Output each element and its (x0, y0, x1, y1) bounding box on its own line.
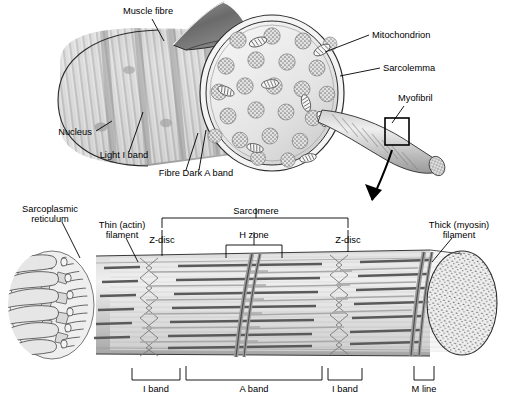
bottom-panel-labels: Sarcoplasmic reticulum Thin (actin) fila… (22, 204, 489, 245)
sarcoplasmic-reticulum-shape (6, 251, 108, 359)
myofibril-body (94, 250, 497, 358)
label-m-line: M line (412, 384, 437, 394)
muscle-structure-diagram: Muscle fibre Mitochondrion Sarcolemma My… (0, 0, 507, 399)
myosin-cross-section (427, 251, 497, 355)
label-mitochondrion: Mitochondrion (372, 30, 430, 40)
myofibril-strand (318, 110, 448, 178)
label-myofibril: Myofibril (398, 93, 433, 103)
label-sarcoplasmic-reticulum-line1: Sarcoplasmic (22, 204, 78, 214)
label-i-band-right: I band (332, 384, 358, 394)
label-light-i-band: Light I band (100, 150, 149, 160)
label-thin-actin-filament-line1: Thin (actin) (99, 220, 146, 230)
label-i-band-left: I band (143, 384, 169, 394)
band-labels: I band A band I band M line (143, 384, 436, 394)
label-z-disc-right: Z-disc (335, 235, 361, 245)
label-sarcolemma: Sarcolemma (383, 63, 436, 73)
label-fibre-dark-a-band: Fibre Dark A band (159, 168, 233, 178)
figure-canvas: Muscle fibre Mitochondrion Sarcolemma My… (0, 0, 507, 399)
label-nucleus: Nucleus (58, 127, 92, 137)
label-z-disc-left: Z-disc (149, 235, 175, 245)
label-thick-myosin-filament-line2: filament (443, 230, 476, 240)
label-h-zone: H zone (239, 230, 268, 240)
fibre-cross-section (200, 15, 344, 171)
label-sarcoplasmic-reticulum-line2: reticulum (31, 214, 69, 224)
label-muscle-fibre: Muscle fibre (123, 6, 173, 16)
label-thick-myosin-filament-line1: Thick (myosin) (429, 220, 489, 230)
label-sarcomere: Sarcomere (233, 206, 278, 216)
label-thin-actin-filament-line2: filament (106, 230, 139, 240)
label-a-band: A band (240, 384, 269, 394)
band-brackets (132, 366, 434, 380)
